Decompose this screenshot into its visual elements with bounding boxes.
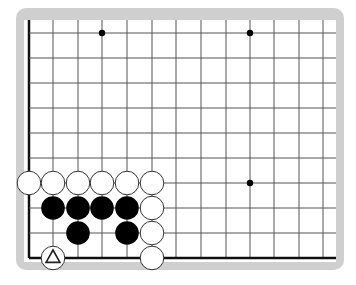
black-stone — [115, 196, 139, 220]
white-stone — [140, 246, 164, 270]
white-stone — [90, 171, 114, 195]
black-stone — [41, 196, 65, 220]
white-stone — [140, 196, 164, 220]
white-stone — [140, 171, 164, 195]
black-stone — [90, 196, 114, 220]
black-stone — [115, 221, 139, 245]
black-stone — [66, 196, 90, 220]
white-stone — [17, 171, 41, 195]
star-point — [99, 30, 105, 36]
white-stone — [41, 171, 65, 195]
white-stone — [140, 221, 164, 245]
white-stone — [66, 171, 90, 195]
star-point — [247, 30, 253, 36]
go-board — [0, 0, 356, 285]
star-point — [247, 180, 253, 186]
black-stone — [66, 221, 90, 245]
white-stone — [115, 171, 139, 195]
